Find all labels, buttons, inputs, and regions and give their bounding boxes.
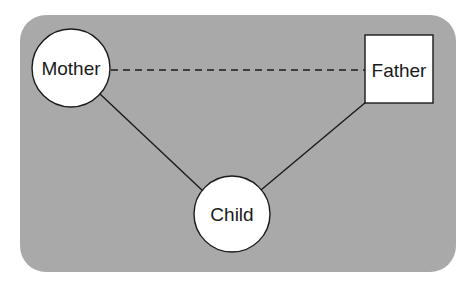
father-label: Father <box>372 60 428 81</box>
family-diagram: Mother Father Child <box>0 0 468 287</box>
node-mother: Mother <box>32 29 110 107</box>
node-father: Father <box>365 35 433 103</box>
child-label: Child <box>210 204 253 225</box>
node-child: Child <box>194 176 270 252</box>
mother-label: Mother <box>41 58 101 79</box>
